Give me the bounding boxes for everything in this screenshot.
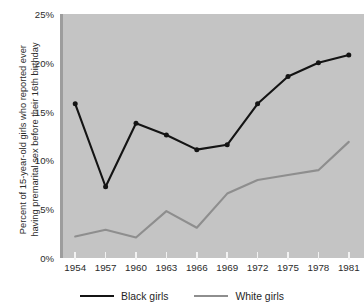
y-tick-label: 10% [28,155,54,166]
data-point-marker [316,60,321,65]
legend-line-swatch [80,295,114,297]
x-tick-mark [287,252,289,260]
x-tick-mark [166,252,168,260]
x-tick-mark [257,252,259,260]
data-point-marker [134,121,139,126]
y-tick-label: 15% [28,106,54,117]
chart-figure: Percent of 15-year-old girls who reporte… [0,0,364,308]
data-point-marker [103,184,108,189]
series-lines [60,14,364,258]
x-tick-mark [135,252,137,260]
x-tick-label: 1966 [186,262,208,273]
series-line [75,142,349,238]
chart-legend: Black girlsWhite girls [0,287,364,305]
data-point-marker [73,101,78,106]
x-tick-mark [348,252,350,260]
x-tick-mark [105,252,107,260]
x-axis-ticks [60,252,364,260]
legend-label: White girls [235,291,284,302]
y-tick-label: 25% [28,9,54,20]
legend-line-swatch [194,295,228,297]
legend-item: Black girls [80,291,168,302]
x-tick-label: 1981 [338,262,360,273]
x-tick-mark [226,252,228,260]
x-tick-label: 1978 [307,262,329,273]
data-point-marker [286,74,291,79]
data-point-marker [164,133,169,138]
x-tick-label: 1963 [155,262,177,273]
data-point-marker [194,147,199,152]
data-point-marker [346,52,351,57]
x-tick-label: 1969 [216,262,238,273]
y-tick-label: 5% [28,204,54,215]
x-tick-label: 1975 [277,262,299,273]
x-tick-mark [74,252,76,260]
x-tick-label: 1972 [247,262,269,273]
x-tick-mark [318,252,320,260]
data-point-marker [225,142,230,147]
x-tick-label: 1957 [95,262,117,273]
series-line [75,55,349,187]
y-tick-label: 20% [28,57,54,68]
legend-label: Black girls [121,291,168,302]
x-tick-mark [196,252,198,260]
x-axis-tick-labels: 1954195719601963196619691972197519781981 [0,262,364,276]
legend-item: White girls [194,291,284,302]
x-tick-label: 1960 [125,262,147,273]
data-point-marker [255,101,260,106]
x-tick-label: 1954 [64,262,86,273]
